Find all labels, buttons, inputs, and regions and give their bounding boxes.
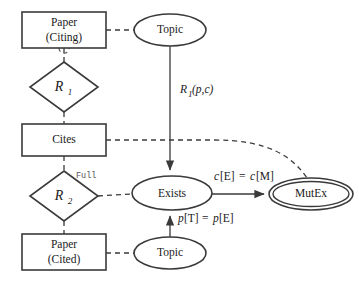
entity-paper-cited[interactable]: Paper (Cited) xyxy=(22,234,106,270)
r2-subscript: 2 xyxy=(68,196,73,206)
c-equality-lhs-bracket: [E] xyxy=(220,170,235,182)
p-equality-lhs-bracket: [T] xyxy=(184,212,199,224)
paper-citing-label-line1: Paper xyxy=(51,16,77,29)
r1-pc-args: (p,c) xyxy=(192,83,214,96)
paper-cited-label-line1: Paper xyxy=(51,238,77,251)
edge-r2-to-exists xyxy=(98,194,132,196)
relationship-r1[interactable]: R 1 xyxy=(30,62,98,112)
edge-cites-to-mutex xyxy=(106,140,307,178)
p-equality-lhs: p xyxy=(177,212,184,225)
entity-topic-top[interactable]: Topic xyxy=(134,14,206,46)
p-equality-eq: = xyxy=(202,212,209,224)
er-diagram-root: Paper (Citing) R 1 Cites R 2 Full Paper … xyxy=(0,0,359,283)
edge-label-r1-pc: R 1 (p,c) xyxy=(179,83,214,99)
c-equality-rhs-bracket: [M] xyxy=(256,170,274,182)
edge-label-p-equality: p [T] = p [E] xyxy=(177,212,234,225)
paper-citing-label-line2: (Citing) xyxy=(46,31,83,44)
p-equality-rhs-bracket: [E] xyxy=(219,212,234,224)
cites-label: Cites xyxy=(52,133,76,145)
topic-top-label: Topic xyxy=(157,23,183,36)
r1-subscript: 1 xyxy=(68,87,73,97)
entity-cites[interactable]: Cites xyxy=(22,124,106,156)
entity-topic-bottom[interactable]: Topic xyxy=(134,237,206,269)
exists-label: Exists xyxy=(158,187,187,199)
diagram-canvas: Paper (Citing) R 1 Cites R 2 Full Paper … xyxy=(0,0,359,283)
full-annotation-label: Full xyxy=(76,171,96,181)
entity-exists[interactable]: Exists xyxy=(132,176,212,210)
c-equality-eq: = xyxy=(239,170,246,182)
c-equality-rhs: c xyxy=(250,170,255,182)
entity-paper-citing[interactable]: Paper (Citing) xyxy=(22,12,106,48)
c-equality-lhs: c xyxy=(214,170,219,182)
topic-bottom-label: Topic xyxy=(157,246,183,259)
entity-mutex[interactable]: MutEx xyxy=(269,178,353,210)
p-equality-rhs: p xyxy=(212,212,219,225)
r2-label: R xyxy=(54,188,64,203)
r1-pc-base: R xyxy=(179,83,187,95)
mutex-label: MutEx xyxy=(295,187,327,199)
r1-diamond xyxy=(30,62,98,112)
paper-cited-label-line2: (Cited) xyxy=(48,253,81,266)
edge-label-c-equality: c [E] = c [M] xyxy=(214,170,274,182)
r1-label: R xyxy=(54,79,64,94)
